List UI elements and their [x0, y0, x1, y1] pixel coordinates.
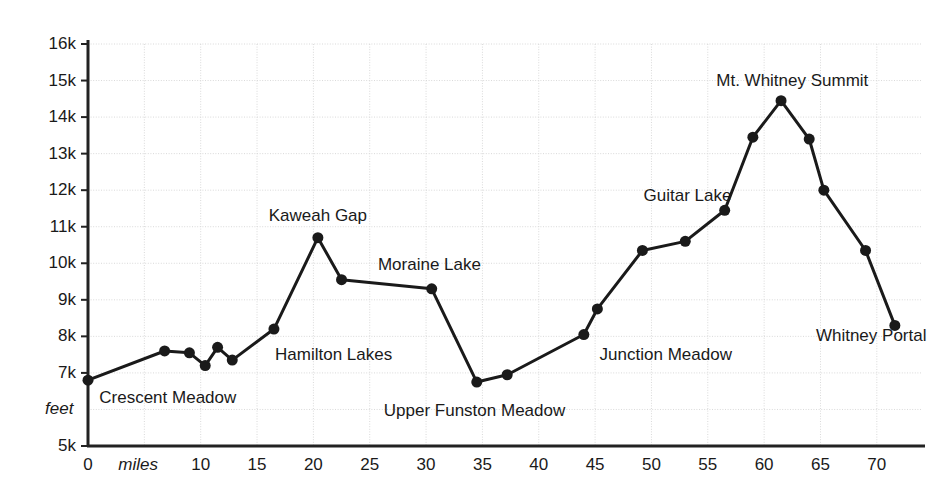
data-point [818, 185, 829, 196]
point-annotation-label: Kaweah Gap [269, 207, 367, 224]
y-axis-tick-label: 7k [58, 364, 76, 381]
elevation-profile-chart: 5k7k8k9k10k11k12k13k14k15k16k01015202530… [0, 0, 948, 489]
data-point [200, 360, 211, 371]
point-annotation-label: Mt. Whitney Summit [716, 72, 868, 89]
x-axis-tick-label: 70 [837, 456, 917, 473]
y-axis-tick-label: 8k [58, 327, 76, 344]
y-axis-tick-label: 14k [49, 108, 76, 125]
data-point [747, 132, 758, 143]
point-annotation-label: Junction Meadow [600, 346, 732, 363]
y-axis-tick-label: 16k [49, 35, 76, 52]
point-annotation-label: Whitney Portal [816, 327, 927, 344]
data-point [471, 377, 482, 388]
y-axis-tick-label: 11k [50, 218, 76, 235]
data-point [336, 274, 347, 285]
data-point [312, 232, 323, 243]
data-point [159, 345, 170, 356]
y-axis-tick-label: 5k [58, 437, 76, 454]
data-point [83, 375, 94, 386]
data-point [227, 355, 238, 366]
y-axis-tick-label: 9k [58, 291, 76, 308]
data-point [426, 283, 437, 294]
y-axis-tick-label: 13k [49, 145, 76, 162]
point-annotation-label: Hamilton Lakes [275, 346, 392, 363]
series-line [88, 101, 895, 382]
data-point [776, 95, 787, 106]
data-series [83, 95, 901, 387]
point-annotation-label: Crescent Meadow [99, 389, 236, 406]
data-point [637, 245, 648, 256]
data-point [592, 303, 603, 314]
axes [81, 40, 925, 446]
point-annotation-label: Guitar Lake [644, 187, 732, 204]
data-point [184, 347, 195, 358]
data-point [680, 236, 691, 247]
data-point [860, 245, 871, 256]
data-point [804, 134, 815, 145]
point-annotation-label: Upper Funston Meadow [384, 402, 565, 419]
y-axis-unit-label: feet [45, 400, 73, 417]
point-annotation-label: Moraine Lake [378, 256, 481, 273]
x-axis-tick-label: 0 [48, 456, 128, 473]
data-point [502, 369, 513, 380]
data-point [719, 205, 730, 216]
y-axis-tick-label: 10k [49, 254, 76, 271]
data-point [578, 329, 589, 340]
x-axis-unit-label: miles [118, 456, 158, 473]
y-axis-tick-label: 15k [49, 72, 76, 89]
data-point [212, 342, 223, 353]
data-point [268, 324, 279, 335]
y-axis-tick-label: 12k [49, 181, 76, 198]
gridlines [88, 44, 922, 446]
